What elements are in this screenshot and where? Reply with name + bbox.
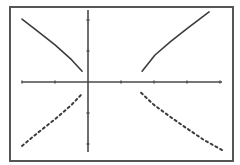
curve-upper-left-branch: [22, 19, 82, 71]
curve-upper-right-branch: [142, 12, 209, 71]
plot-frame: [10, 7, 233, 161]
curve-lower-left-branch: [22, 93, 83, 146]
axes: [22, 10, 222, 152]
curve-lower-right-branch: [141, 93, 224, 151]
graph-plot: [0, 0, 240, 165]
